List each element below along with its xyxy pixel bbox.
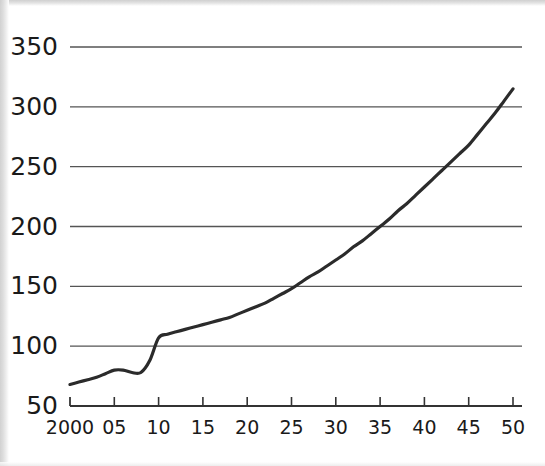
y-tick-label-150: 150 — [10, 273, 58, 298]
line-chart-plot — [0, 0, 545, 466]
x-tick-label-50: 50 — [473, 418, 545, 437]
gridlines — [70, 47, 522, 346]
y-tick-label-300: 300 — [10, 94, 58, 119]
y-tick-label-100: 100 — [10, 333, 58, 358]
y-tick-label-350: 350 — [10, 34, 58, 59]
data-line-series — [70, 89, 513, 385]
y-tick-label-250: 250 — [10, 154, 58, 179]
y-tick-label-200: 200 — [10, 214, 58, 239]
x-axis-ticks — [114, 397, 513, 406]
y-tick-label-50: 50 — [26, 393, 58, 418]
data-line-series-1 — [70, 89, 513, 385]
axis-lines — [70, 397, 522, 406]
chart-figure: 50100150200250300350 2000051015202530354… — [0, 0, 545, 466]
